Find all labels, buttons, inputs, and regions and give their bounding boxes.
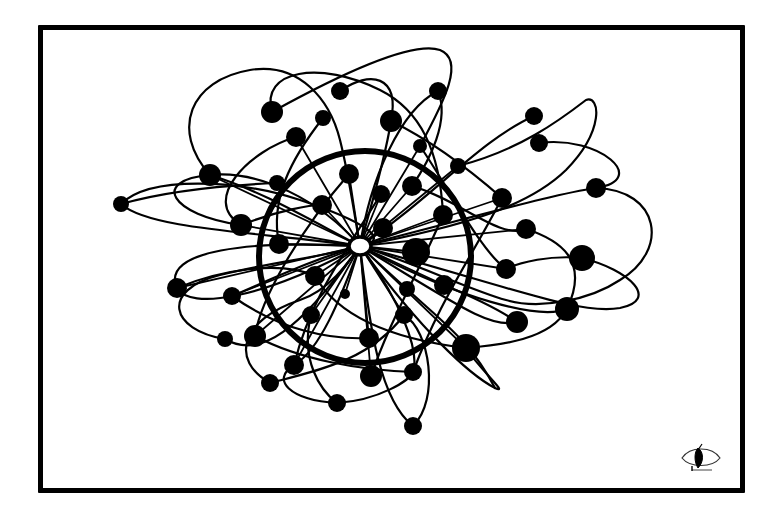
network-node xyxy=(373,218,393,238)
node-dots xyxy=(113,82,606,435)
network-node xyxy=(525,107,543,125)
network-illustration xyxy=(0,0,778,515)
network-node xyxy=(434,275,454,295)
network-node xyxy=(404,417,422,435)
network-node xyxy=(339,164,359,184)
network-node xyxy=(328,394,346,412)
network-node xyxy=(269,234,289,254)
network-node xyxy=(516,219,536,239)
network-node xyxy=(452,334,480,362)
network-node xyxy=(312,195,332,215)
network-node xyxy=(223,287,241,305)
network-node xyxy=(113,196,129,212)
network-node xyxy=(199,164,221,186)
network-node xyxy=(284,355,304,375)
network-node xyxy=(359,328,379,348)
network-node xyxy=(380,110,402,132)
network-node xyxy=(496,259,516,279)
network-node xyxy=(530,134,548,152)
network-node xyxy=(395,306,413,324)
network-node xyxy=(506,311,528,333)
network-node xyxy=(569,245,595,271)
network-node xyxy=(261,101,283,123)
hub-node xyxy=(349,237,371,255)
network-node xyxy=(372,185,390,203)
network-node xyxy=(433,205,453,225)
network-node xyxy=(302,306,320,324)
network-node xyxy=(492,188,512,208)
network-node xyxy=(360,365,382,387)
network-node xyxy=(331,82,349,100)
network-node xyxy=(402,238,430,266)
network-node xyxy=(404,363,422,381)
network-node xyxy=(286,127,306,147)
network-node xyxy=(413,139,427,153)
network-node xyxy=(450,158,466,174)
network-node xyxy=(586,178,606,198)
network-node xyxy=(555,297,579,321)
network-node xyxy=(399,281,415,297)
network-node xyxy=(315,110,331,126)
network-node xyxy=(340,289,350,299)
network-node xyxy=(402,176,422,196)
eye-leaf-icon xyxy=(678,440,724,474)
network-node xyxy=(167,278,187,298)
network-node xyxy=(217,331,233,347)
network-node xyxy=(429,82,447,100)
network-node xyxy=(230,214,252,236)
network-node xyxy=(305,266,325,286)
network-node xyxy=(269,175,285,191)
network-node xyxy=(261,374,279,392)
network-node xyxy=(244,325,266,347)
